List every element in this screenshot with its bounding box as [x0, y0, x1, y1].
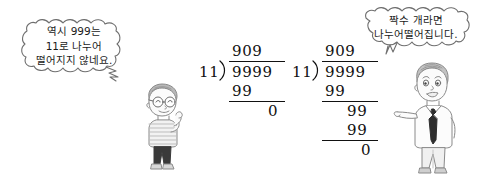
division-left-step-1: 99 — [232, 82, 252, 101]
speech-bubble-left-line-2: 11로 나누어 — [46, 39, 103, 53]
character-boy-figure — [143, 82, 189, 172]
speech-bubble-left-line-3: 떨어지지 않네요. — [36, 53, 113, 67]
division-left-dividend: 9999 — [232, 63, 273, 82]
division-right-bracket — [312, 60, 321, 81]
division-right-dividend: 9999 — [325, 63, 366, 82]
division-left-vinculum — [229, 61, 285, 62]
division-right-step-2: 99 — [347, 102, 367, 121]
speech-bubble-left: 역시 999는 11로 나누어 떨어지지 않네요. — [17, 17, 131, 75]
speech-bubble-right: 짝수 개라면 나누어떨어집니다. — [357, 6, 475, 48]
speech-bubble-left-text: 역시 999는 11로 나누어 떨어지지 않네요. — [17, 17, 131, 75]
division-right-vinculum — [322, 61, 378, 62]
division-right-step-1: 99 — [325, 82, 345, 101]
division-left-bracket — [219, 60, 228, 81]
character-man — [395, 60, 471, 176]
division-left-quotient: 909 — [232, 42, 262, 61]
speech-bubble-right-line-1: 짝수 개라면 — [389, 13, 442, 27]
division-left-divisor: 11 — [199, 63, 219, 82]
division-right-divisor: 11 — [292, 63, 312, 82]
division-right-step-3: 99 — [347, 121, 367, 140]
character-boy — [143, 82, 189, 172]
speech-bubble-left-line-1: 역시 999는 — [47, 24, 100, 38]
speech-bubble-right-text: 짝수 개라면 나누어떨어집니다. — [357, 6, 475, 48]
speech-bubble-right-line-2: 나누어떨어집니다. — [374, 27, 457, 41]
character-man-figure — [395, 60, 471, 176]
division-left-remainder: 0 — [268, 102, 278, 121]
division-right-remainder: 0 — [361, 141, 371, 160]
worksheet-illustration: 역시 999는 11로 나누어 떨어지지 않네요. 짝수 개라면 나누어떨어집니… — [0, 0, 481, 178]
division-right-quotient: 909 — [325, 42, 355, 61]
